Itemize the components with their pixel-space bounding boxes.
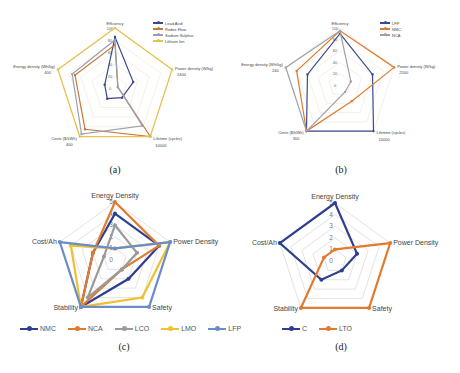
legend-label: NCA	[392, 33, 400, 38]
data-point-marker	[113, 223, 117, 227]
radial-tick-label: 3	[329, 222, 333, 229]
series-line	[286, 31, 351, 131]
radial-tick-label: 0	[109, 86, 112, 91]
legend-label: NMC	[392, 27, 401, 32]
data-point-marker	[306, 73, 308, 75]
data-point-marker	[102, 254, 106, 258]
caption-b: (b)	[321, 164, 361, 175]
axis-label: Lifetime (cycles)	[153, 136, 183, 141]
radar-chart-b: 020406080100EfficiencyPower density (W/k…	[230, 0, 460, 185]
radial-tick-label: 100	[332, 26, 339, 31]
data-point-marker	[339, 30, 341, 32]
data-point-marker	[372, 130, 374, 132]
data-point-marker	[371, 73, 373, 75]
grid-ring	[329, 74, 351, 95]
axis-max-label: 400	[66, 142, 73, 147]
legend-swatch	[380, 22, 390, 24]
data-point-marker	[135, 251, 139, 255]
legend-item: NCA	[68, 325, 103, 332]
data-point-marker	[351, 100, 353, 102]
radial-tick-label: 0	[329, 257, 333, 264]
caption-d: (d)	[321, 341, 361, 352]
data-point-marker	[388, 241, 392, 245]
axis-label: Cost/Ah	[32, 238, 57, 245]
radial-tick-label: 40	[333, 60, 338, 65]
data-point-marker	[58, 240, 62, 244]
legend-label: LTO	[339, 325, 352, 332]
legend-label: NCA	[88, 325, 103, 332]
radar-plot-a: 020406080100EfficiencyPower density (W/k…	[0, 0, 230, 160]
legend-label: LCO	[135, 325, 149, 332]
data-point-marker	[299, 306, 303, 310]
data-point-marker	[117, 86, 119, 88]
legend-b: LFPNMCNCA	[380, 20, 401, 38]
legend-item: NCA	[380, 32, 401, 38]
axis-label: Stability	[273, 305, 298, 313]
data-point-marker	[79, 135, 81, 137]
caption-c: (c)	[104, 341, 144, 352]
data-point-marker	[355, 252, 359, 256]
radar-plot-c: 012345Energy DensityPower DensitySafetyS…	[0, 185, 230, 325]
data-point-marker	[113, 200, 117, 204]
legend-item: C	[282, 325, 307, 332]
axis-max-label: 300	[293, 136, 300, 141]
series-line	[306, 34, 373, 131]
legend-c: NMCNCALCOLMOLFP	[20, 325, 253, 332]
data-point-marker	[278, 241, 282, 245]
legend-d: CLTO	[282, 325, 364, 332]
axis-max-label: 240	[272, 68, 279, 73]
data-point-marker	[120, 267, 124, 271]
legend-swatch	[282, 328, 300, 330]
data-point-marker	[141, 125, 143, 127]
data-point-marker	[322, 255, 326, 259]
legend-item: LMO	[161, 325, 196, 332]
legend-label: LMO	[181, 325, 196, 332]
legend-swatch	[20, 328, 38, 330]
radar-plot-d: 012345Energy DensityPower DensitySafetyS…	[230, 185, 460, 325]
data-point-marker	[71, 73, 73, 75]
data-point-marker	[57, 68, 59, 70]
legend-label: Sodium Sulphur	[165, 33, 193, 38]
grid-ring	[324, 249, 346, 270]
axis-label: Power density (W/kg)	[397, 64, 436, 69]
legend-swatch	[153, 40, 163, 42]
radial-tick-label: 0	[334, 83, 337, 88]
data-point-marker	[121, 97, 123, 99]
data-point-marker	[132, 81, 134, 83]
axis-label: Cost/Ah	[252, 239, 277, 246]
data-point-marker	[80, 133, 82, 135]
data-point-marker	[104, 83, 106, 85]
data-point-marker	[149, 135, 151, 137]
data-point-marker	[114, 27, 116, 29]
legend-label: Redox Flow	[165, 27, 186, 32]
axis-max-label: 2500	[399, 70, 409, 75]
axis-label: Stability	[53, 304, 78, 312]
caption-a: (a)	[95, 164, 135, 175]
axis-label: Safety	[372, 305, 392, 313]
radial-tick-label: 2	[329, 234, 333, 241]
axis-max-label: 10000	[155, 143, 167, 148]
legend-a: Lead AcidRedox FlowSodium SulphurLithium…	[153, 20, 193, 44]
legend-label: NMC	[40, 325, 56, 332]
legend-item: NMC	[20, 325, 56, 332]
legend-label: C	[302, 325, 307, 332]
axis-max-label: 10000	[379, 137, 391, 142]
legend-label: Lithium Ion	[165, 39, 185, 44]
data-point-marker	[333, 201, 337, 205]
legend-item: LCO	[115, 325, 149, 332]
data-point-marker	[168, 240, 172, 244]
data-point-marker	[340, 268, 344, 272]
axis-label: Energy density (Wh/kg)	[241, 62, 283, 67]
legend-swatch	[115, 328, 133, 330]
axis-max-label: 400	[44, 70, 51, 75]
radar-plot-b: 020406080100EfficiencyPower density (W/k…	[230, 0, 460, 160]
axis-label: Safety	[152, 304, 172, 312]
radar-chart-c: 012345Energy DensityPower DensitySafetyS…	[0, 185, 230, 373]
data-point-marker	[79, 305, 83, 309]
legend-label: LFP	[392, 21, 399, 26]
data-point-marker	[114, 36, 116, 38]
data-point-marker	[91, 251, 95, 255]
radial-tick-label: 20	[333, 71, 338, 76]
legend-item: LTO	[319, 325, 352, 332]
legend-swatch	[153, 34, 163, 36]
